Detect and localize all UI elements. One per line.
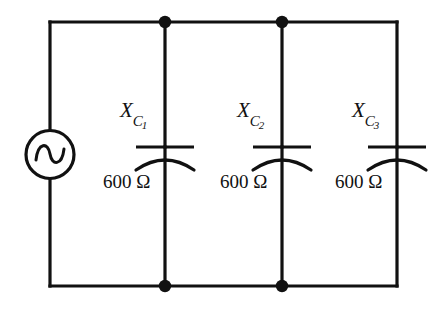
branch-2-reactance-symbol: X	[237, 98, 250, 122]
branch-1-value-label: 600 Ω	[103, 172, 150, 191]
branch-1-reactance-label: XC1	[120, 100, 148, 125]
branch-2-reactance-index: 2	[259, 119, 265, 131]
branch-1-reactance-symbol: X	[120, 98, 133, 122]
branch-3-reactance-symbol: X	[352, 98, 365, 122]
branch-2-value-label: 600 Ω	[220, 172, 267, 191]
node-dot-top-branch-2	[276, 16, 288, 28]
circuit-diagram-canvas: XC1 XC2 XC3 600 Ω 600 Ω 600 Ω	[0, 0, 437, 314]
branch-3-reactance-index: 3	[374, 119, 380, 131]
branch-2-reactance-label: XC2	[237, 100, 265, 125]
node-dot-bottom-branch-1	[159, 280, 171, 292]
schematic-svg	[0, 0, 437, 314]
node-dot-bottom-branch-2	[276, 280, 288, 292]
branch-3-value-label: 600 Ω	[335, 172, 382, 191]
branch-3-reactance-label: XC3	[352, 100, 380, 125]
node-dot-top-branch-1	[159, 16, 171, 28]
branch-1-reactance-index: 1	[142, 119, 148, 131]
